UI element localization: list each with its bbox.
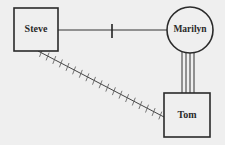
node-marilyn-label: Marilyn bbox=[167, 25, 213, 35]
edge-marilyn-tom bbox=[182, 52, 194, 93]
genogram-canvas bbox=[0, 0, 225, 145]
edge-steve-tom bbox=[38, 49, 164, 119]
node-tom-label: Tom bbox=[164, 110, 210, 120]
edge-steve-marilyn bbox=[58, 24, 167, 38]
node-steve-label: Steve bbox=[14, 24, 58, 34]
